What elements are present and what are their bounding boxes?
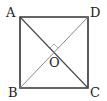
square-diagram: A D B C O [0, 0, 107, 101]
label-o: O [49, 55, 60, 70]
label-a: A [5, 5, 16, 20]
label-b: B [8, 85, 18, 100]
right-angle-mark [50, 44, 58, 48]
label-c: C [90, 85, 100, 100]
label-d: D [90, 5, 100, 20]
